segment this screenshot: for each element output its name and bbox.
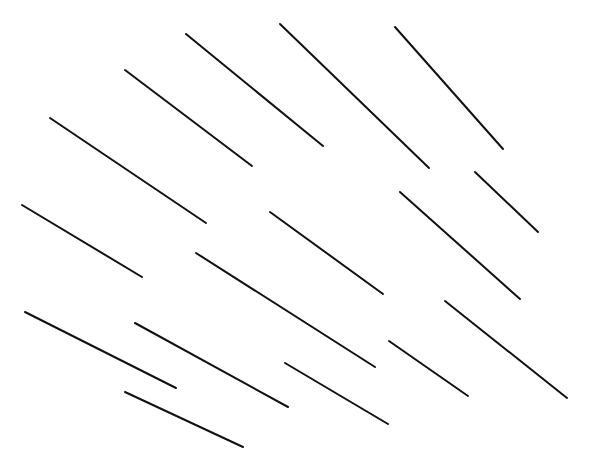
line-segment-diagram	[0, 0, 589, 472]
background	[0, 0, 589, 472]
